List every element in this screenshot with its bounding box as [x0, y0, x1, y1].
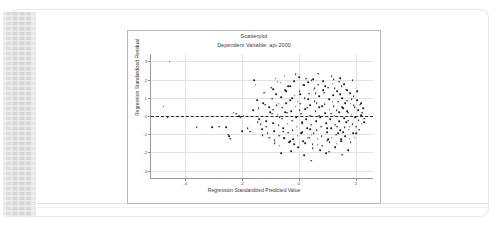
scatter-point [292, 129, 294, 131]
scatter-point [318, 73, 320, 75]
scatter-point [290, 99, 292, 101]
scatter-point [358, 129, 360, 131]
scatter-point [346, 100, 348, 102]
scatter-point [265, 120, 267, 122]
scatter-point [211, 126, 213, 128]
scatter-point [279, 145, 281, 147]
page-divider-secondary [37, 207, 489, 208]
scatter-point [320, 149, 322, 151]
y-tick-label: -1 [143, 132, 147, 137]
scatter-point [345, 121, 347, 123]
scatter-point [359, 104, 361, 106]
scatter-point [324, 85, 326, 87]
scatter-point [280, 82, 282, 84]
scatter-point [196, 126, 198, 128]
scatter-point [355, 117, 357, 119]
scatter-point [283, 131, 285, 133]
scatter-point [328, 151, 330, 153]
scatter-point [325, 122, 327, 124]
y-tick-mark [148, 116, 151, 117]
scatter-point [167, 117, 169, 119]
scatter-point [363, 122, 365, 124]
scatter-point [353, 105, 355, 107]
scatter-point [337, 90, 339, 92]
scatter-point [260, 123, 262, 125]
chart-subtitle: Dependent Variable: api 2000 [128, 42, 380, 48]
scatter-point [271, 98, 273, 100]
scatter-point [310, 124, 312, 126]
scatter-point [315, 111, 317, 113]
scatter-point [293, 143, 295, 145]
scatter-point [262, 134, 264, 136]
zero-reference-line [151, 116, 373, 117]
scatter-point [312, 143, 314, 145]
scatter-point [351, 114, 353, 116]
x-axis-title: Regression Standardized Predicted Value [128, 187, 380, 193]
scatter-point [284, 111, 286, 113]
scatter-point [327, 138, 329, 140]
scatter-point [243, 115, 245, 117]
scatter-point [275, 78, 277, 80]
scatter-point [349, 92, 351, 94]
scatter-point [273, 130, 275, 132]
scatter-point [300, 113, 302, 115]
scatter-point [324, 103, 326, 105]
scatter-point [337, 126, 339, 128]
scatter-point [278, 125, 280, 127]
scatter-point [317, 138, 319, 140]
y-tick-mark [148, 134, 151, 135]
y-tick-label: 0 [145, 114, 147, 119]
scatter-point [256, 99, 258, 101]
scatter-point [302, 84, 304, 86]
scatter-point [314, 87, 316, 89]
scatter-point [341, 86, 343, 88]
scatter-point [341, 106, 343, 108]
y-tick-label: 2 [145, 77, 147, 82]
scatter-point [346, 89, 348, 91]
scatter-point [337, 132, 339, 134]
scatter-point [308, 93, 310, 95]
scatter-point [271, 113, 273, 115]
scatter-point [354, 137, 356, 139]
scatter-point [337, 101, 339, 103]
scatter-point [281, 96, 283, 98]
scatter-point [357, 109, 359, 111]
y-tick-mark [148, 152, 151, 153]
scatter-point [330, 113, 332, 115]
scatter-point [258, 118, 260, 120]
scatter-point [336, 109, 338, 111]
scatter-point [349, 126, 351, 128]
scatter-point [321, 145, 323, 147]
scatter-point [343, 117, 345, 119]
scatter-point [285, 102, 287, 104]
scatter-point [292, 138, 294, 140]
scatter-point [327, 87, 329, 89]
scatter-point [309, 128, 311, 130]
scatter-point [295, 74, 297, 76]
scatter-point [298, 76, 300, 78]
scatter-point [357, 99, 359, 101]
scatter-point [287, 132, 289, 134]
scatter-point [283, 128, 285, 130]
x-tick-label: -2 [240, 181, 244, 186]
scatter-point [290, 110, 292, 112]
scatter-point [339, 129, 341, 131]
scatter-point [347, 120, 349, 122]
scatter-point [324, 112, 326, 114]
scatter-point [275, 94, 277, 96]
scatter-point [249, 131, 251, 133]
scatter-point [339, 94, 341, 96]
scatter-point [299, 109, 301, 111]
scatter-point [352, 79, 354, 81]
scatter-point [317, 144, 319, 146]
scatter-point [347, 112, 349, 114]
scatter-point [350, 141, 352, 143]
scatter-point [316, 102, 318, 104]
scatter-point [333, 78, 335, 80]
scatter-point [304, 97, 306, 99]
plot-area: 3210-1-2-3 -4-202 [150, 54, 373, 179]
scatter-point [257, 122, 259, 124]
scatter-point [285, 90, 287, 92]
scatter-point [300, 103, 302, 105]
scatter-point [277, 81, 279, 83]
